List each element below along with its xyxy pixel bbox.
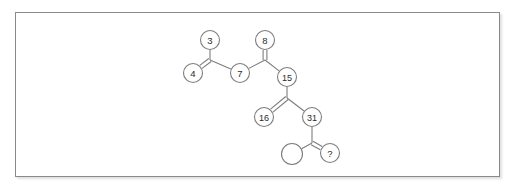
diagram-frame-border — [15, 12, 500, 177]
screenshot-canvas: 3847151631? — [0, 0, 518, 194]
